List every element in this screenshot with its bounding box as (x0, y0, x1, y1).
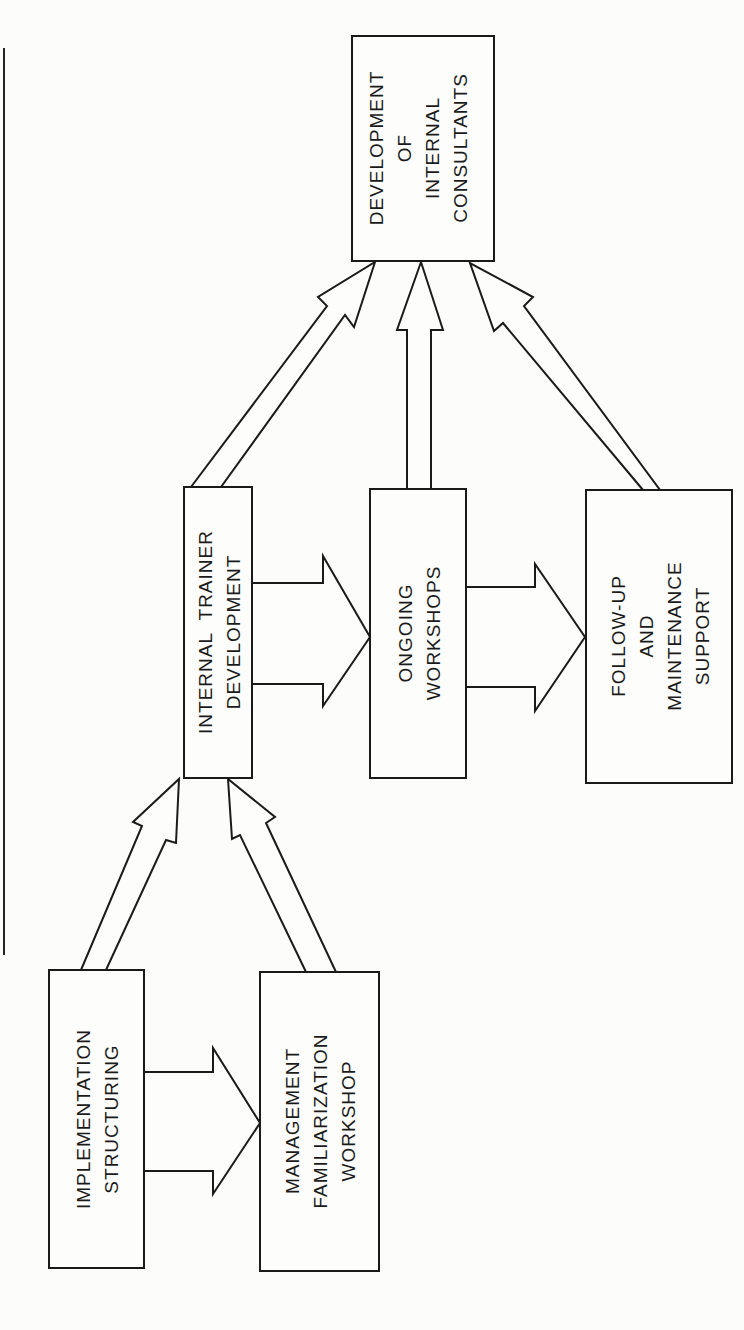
node-label-line: INTERNAL TRAINER (195, 530, 216, 734)
node-label-line: OF (394, 134, 415, 162)
node-label-line: SUPPORT (692, 587, 713, 686)
node-development: DEVELOPMENT OF INTERNAL CONSULTANTS (352, 36, 494, 261)
node-label-line: AND (636, 614, 657, 657)
arrow-followup-to-development (470, 263, 660, 490)
flow-diagram: DEVELOPMENT OF INTERNAL CONSULTANTS INTE… (0, 0, 744, 1330)
arrow-ongoing-to-followup (466, 564, 585, 711)
node-label-line: WORKSHOPS (423, 566, 444, 701)
arrow-trainer-to-development (191, 262, 375, 487)
node-label-line: ONGOING (395, 584, 416, 683)
node-label-line: WORKSHOP (338, 1061, 359, 1182)
arrow-trainer-to-ongoing (252, 556, 370, 706)
node-ongoing-workshops: ONGOING WORKSHOPS (370, 489, 466, 778)
node-label-line: IMPLEMENTATION (73, 1029, 94, 1209)
node-label-line: DEVELOPMENT (366, 71, 387, 226)
node-implementation-structuring: IMPLEMENTATION STRUCTURING (49, 970, 144, 1268)
node-label-line: CONSULTANTS (450, 73, 471, 223)
arrow-management-to-trainer (228, 779, 336, 972)
node-label-line: DEVELOPMENT (223, 555, 244, 710)
node-label-line: MANAGEMENT (282, 1048, 303, 1194)
node-label-line: FAMILIARIZATION (310, 1033, 331, 1208)
node-label-line: STRUCTURING (101, 1044, 122, 1193)
node-label-line: MAINTENANCE (664, 561, 685, 710)
arrow-implementation-to-trainer (81, 779, 179, 970)
node-internal-trainer: INTERNAL TRAINER DEVELOPMENT (184, 487, 252, 778)
arrow-ongoing-to-development (397, 262, 443, 489)
node-label-line: INTERNAL (422, 97, 443, 199)
arrow-implementation-to-management (144, 1048, 260, 1194)
node-label-line: FOLLOW-UP (608, 575, 629, 697)
node-management-workshop: MANAGEMENT FAMILIARIZATION WORKSHOP (260, 972, 379, 1271)
node-followup-support: FOLLOW-UP AND MAINTENANCE SUPPORT (586, 490, 732, 783)
